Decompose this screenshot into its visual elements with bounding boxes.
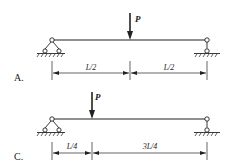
diagram-c: P L/4 3L/4 C. bbox=[14, 92, 220, 162]
segment-label: L/2 bbox=[163, 63, 175, 72]
option-label: C. bbox=[14, 151, 23, 162]
load-arrow-icon bbox=[127, 13, 133, 40]
load-label: P bbox=[135, 14, 141, 24]
roller-support-icon bbox=[194, 38, 220, 57]
segment-label: L/4 bbox=[66, 142, 78, 151]
roller-support-icon bbox=[194, 117, 220, 136]
load-label: P bbox=[95, 92, 101, 102]
dimension-lines bbox=[52, 61, 207, 80]
beam-diagrams: P L/2 L/2 A. bbox=[0, 0, 235, 168]
pin-support-icon bbox=[37, 117, 65, 136]
segment-label: L/2 bbox=[85, 63, 97, 72]
segment-label: 3L/4 bbox=[142, 142, 158, 151]
diagram-a: P L/2 L/2 A. bbox=[14, 13, 220, 83]
option-label: A. bbox=[14, 72, 24, 83]
pin-support-icon bbox=[37, 38, 65, 57]
